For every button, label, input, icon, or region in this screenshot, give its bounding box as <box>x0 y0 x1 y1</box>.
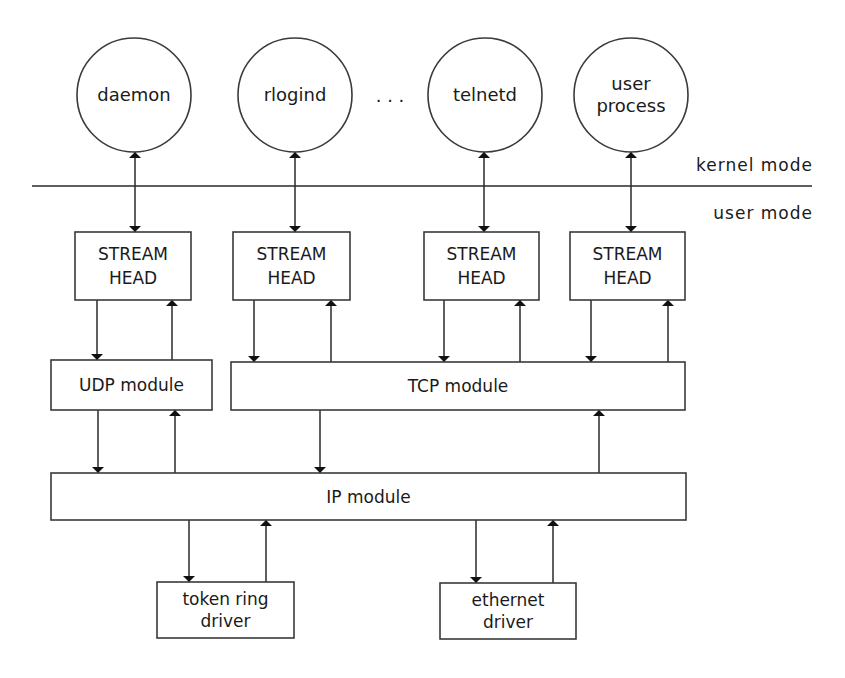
tcp-module: TCP module <box>231 362 685 410</box>
process-label: telnetd <box>453 84 517 105</box>
ellipsis: . . . <box>376 85 405 106</box>
streams-networking-diagram: kernel mode user mode . . . daemonrlogin… <box>0 0 845 678</box>
module-label: IP module <box>326 487 410 507</box>
module-label: UDP module <box>79 375 184 395</box>
user-mode-label: user mode <box>713 203 813 223</box>
process-label: process <box>596 95 665 116</box>
driver-label: driver <box>200 611 250 631</box>
stream-head-box <box>233 232 350 300</box>
stream-head-label: HEAD <box>267 268 315 288</box>
ethernet-driver: ethernetdriver <box>440 583 576 639</box>
driver-label: token ring <box>182 589 268 609</box>
stream-head-label: HEAD <box>603 268 651 288</box>
stream-head-box <box>424 232 539 300</box>
stream-head-4: STREAMHEAD <box>570 232 685 300</box>
stream-head-3: STREAMHEAD <box>424 232 539 300</box>
stream-head-label: STREAM <box>446 244 516 264</box>
stream-head-label: STREAM <box>256 244 326 264</box>
stream-head-box <box>570 232 685 300</box>
stream-head-label: HEAD <box>109 268 157 288</box>
process-label: daemon <box>97 84 171 105</box>
stream-head-box <box>75 232 191 300</box>
stream-head-2: STREAMHEAD <box>233 232 350 300</box>
process-user-process: userprocess <box>574 38 688 152</box>
module-boxes: STREAMHEADSTREAMHEADSTREAMHEADSTREAMHEAD… <box>51 232 686 639</box>
stream-head-label: STREAM <box>592 244 662 264</box>
process-label: rlogind <box>264 84 327 105</box>
stream-head-1: STREAMHEAD <box>75 232 191 300</box>
process-label: user <box>611 73 651 94</box>
process-rlogind: rlogind <box>238 38 352 152</box>
driver-label: ethernet <box>472 590 545 610</box>
module-label: TCP module <box>407 376 509 396</box>
kernel-mode-label: kernel mode <box>696 155 813 175</box>
driver-label: driver <box>483 612 533 632</box>
process-daemon: daemon <box>77 38 191 152</box>
token-ring-driver: token ringdriver <box>157 582 294 638</box>
stream-head-label: STREAM <box>98 244 168 264</box>
ip-module: IP module <box>51 473 686 520</box>
udp-module: UDP module <box>51 360 212 410</box>
stream-head-label: HEAD <box>457 268 505 288</box>
process-telnetd: telnetd <box>428 38 542 152</box>
